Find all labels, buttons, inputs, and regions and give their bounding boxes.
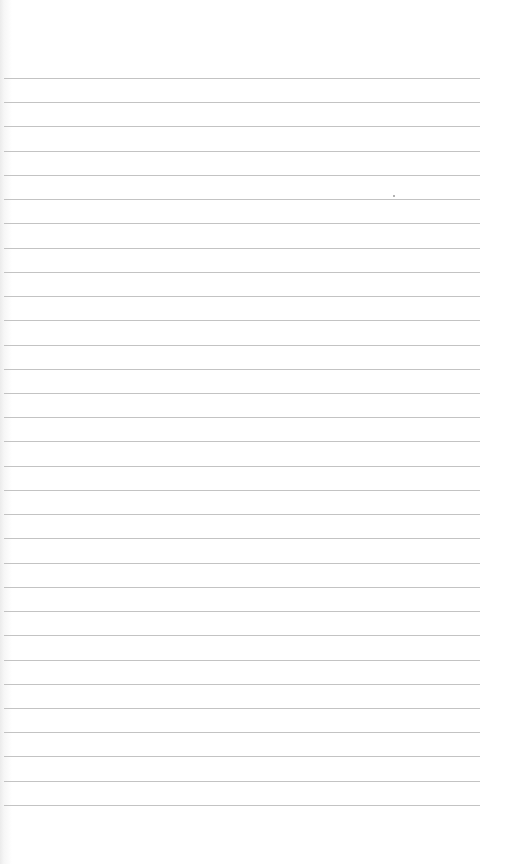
ruled-line xyxy=(4,126,480,127)
ruled-line xyxy=(4,272,480,273)
ruled-line xyxy=(4,223,480,224)
ruled-line xyxy=(4,708,480,709)
ruled-line xyxy=(4,466,480,467)
ruled-line xyxy=(4,320,480,321)
ruled-line xyxy=(4,732,480,733)
ruled-line xyxy=(4,611,480,612)
ruled-line xyxy=(4,175,480,176)
ruled-line xyxy=(4,684,480,685)
lined-paper-sheet xyxy=(0,0,512,864)
paper-speck xyxy=(393,195,395,197)
ruled-line xyxy=(4,490,480,491)
ruled-line xyxy=(4,369,480,370)
ruled-line xyxy=(4,635,480,636)
ruled-line xyxy=(4,248,480,249)
ruled-line xyxy=(4,538,480,539)
ruled-line xyxy=(4,78,480,79)
ruled-line xyxy=(4,441,480,442)
ruled-line xyxy=(4,345,480,346)
ruled-line xyxy=(4,756,480,757)
ruled-line xyxy=(4,102,480,103)
ruled-line xyxy=(4,805,480,806)
ruled-line xyxy=(4,296,480,297)
ruled-line xyxy=(4,199,480,200)
ruled-line xyxy=(4,563,480,564)
ruled-line xyxy=(4,417,480,418)
ruled-line xyxy=(4,151,480,152)
ruled-line xyxy=(4,660,480,661)
ruled-line xyxy=(4,514,480,515)
ruled-line xyxy=(4,587,480,588)
ruled-line xyxy=(4,781,480,782)
ruled-line xyxy=(4,393,480,394)
